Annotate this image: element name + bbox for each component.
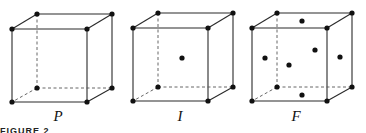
corner-atom bbox=[349, 84, 354, 89]
lattice-point bbox=[312, 47, 317, 52]
corner-atom bbox=[205, 25, 210, 30]
lattice-point bbox=[337, 54, 342, 59]
corner-atom bbox=[34, 85, 39, 90]
cube-face-centered bbox=[249, 10, 354, 103]
corner-atom bbox=[324, 98, 329, 103]
cube-edge bbox=[87, 88, 112, 102]
corner-atom bbox=[34, 11, 39, 16]
cube-edge bbox=[327, 13, 352, 28]
corner-atom bbox=[249, 25, 254, 30]
corner-atom bbox=[249, 98, 254, 103]
corner-atom bbox=[155, 10, 160, 15]
corner-atom bbox=[84, 99, 89, 104]
corner-atom bbox=[205, 98, 210, 103]
corner-atom bbox=[109, 85, 114, 90]
corner-atom bbox=[230, 10, 235, 15]
lattice-point bbox=[286, 62, 291, 67]
label-body-centered: I bbox=[178, 108, 183, 125]
corner-atom bbox=[274, 10, 279, 15]
cube-edge bbox=[12, 14, 37, 29]
lattice-point bbox=[299, 18, 304, 23]
corner-atom bbox=[9, 99, 14, 104]
corner-atom bbox=[9, 26, 14, 31]
cube-edge bbox=[87, 14, 112, 29]
lattice-point bbox=[179, 55, 184, 60]
lattice-point bbox=[262, 55, 267, 60]
cube-edge bbox=[208, 87, 233, 101]
cube-edge bbox=[208, 13, 233, 28]
cube-body-centered bbox=[130, 10, 235, 103]
cube-edge bbox=[252, 13, 277, 28]
hidden-edge bbox=[133, 87, 158, 101]
corner-atom bbox=[230, 84, 235, 89]
corner-atom bbox=[274, 84, 279, 89]
hidden-edge bbox=[12, 88, 37, 102]
corner-atom bbox=[109, 11, 114, 16]
cube-edge bbox=[327, 87, 352, 101]
lattice-point bbox=[299, 92, 304, 97]
corner-atom bbox=[155, 84, 160, 89]
cube-primitive bbox=[9, 11, 114, 104]
corner-atom bbox=[130, 98, 135, 103]
figure-caption: FIGURE 2 bbox=[0, 126, 50, 133]
cube-edge bbox=[133, 13, 158, 28]
corner-atom bbox=[130, 25, 135, 30]
corner-atom bbox=[324, 25, 329, 30]
corner-atom bbox=[84, 26, 89, 31]
hidden-edge bbox=[252, 87, 277, 101]
corner-atom bbox=[349, 10, 354, 15]
label-primitive: P bbox=[53, 108, 62, 125]
label-face-centered: F bbox=[291, 108, 300, 125]
